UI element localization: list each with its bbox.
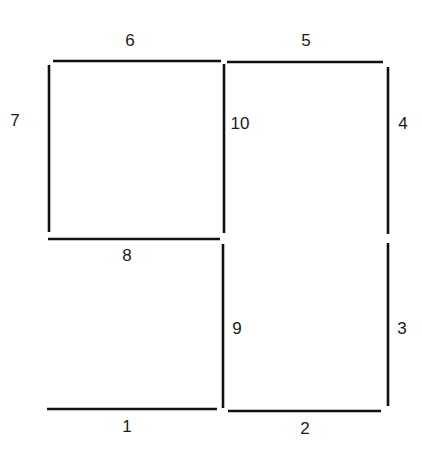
segment-label: 7 [10, 111, 19, 130]
segment-label: 9 [232, 319, 241, 338]
segment-label: 10 [231, 114, 250, 133]
segment-label: 4 [398, 114, 407, 133]
segment-9: 9 [223, 244, 242, 408]
segment-5: 5 [227, 31, 383, 62]
segment-label: 1 [122, 417, 131, 436]
segment-6: 6 [53, 31, 221, 61]
segment-4: 4 [388, 67, 408, 234]
segment-8: 8 [48, 239, 220, 265]
segment-diagram: 12345678910 [0, 0, 422, 456]
segment-3: 3 [388, 243, 407, 406]
segment-7: 7 [10, 65, 49, 232]
segment-label: 8 [122, 246, 131, 265]
segment-10: 10 [224, 64, 249, 233]
segment-1: 1 [47, 409, 217, 436]
segment-2: 2 [228, 411, 381, 438]
segment-label: 5 [301, 31, 310, 50]
segment-label: 6 [125, 31, 134, 50]
segment-label: 2 [300, 419, 309, 438]
segment-label: 3 [397, 319, 406, 338]
